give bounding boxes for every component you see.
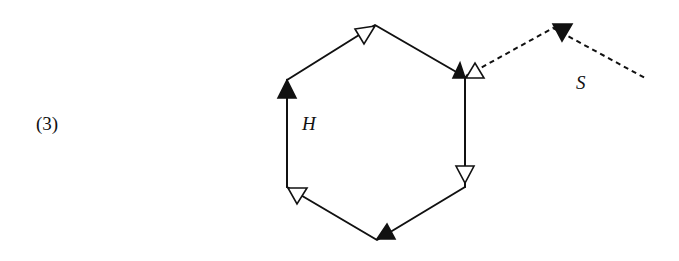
hexagon-bottom-edges — [287, 187, 465, 240]
figure-number-label: (3) — [36, 114, 58, 133]
string-label-s: S — [576, 73, 586, 92]
diagram-canvas: (3) H S — [0, 0, 679, 261]
hollow-arrow-icon-lower-right — [456, 166, 474, 183]
hollow-arrow-icon-upper-right — [466, 63, 484, 78]
hexagon-diagram — [0, 0, 679, 261]
filled-arrow-icon-dashed-peak — [553, 24, 572, 41]
hexagon-top-edges — [287, 25, 465, 80]
loop-label-h: H — [302, 114, 316, 133]
dashed-string-path — [466, 28, 645, 78]
hollow-arrow-icon-top — [355, 26, 375, 44]
filled-arrow-icon-upper-left — [278, 80, 296, 98]
